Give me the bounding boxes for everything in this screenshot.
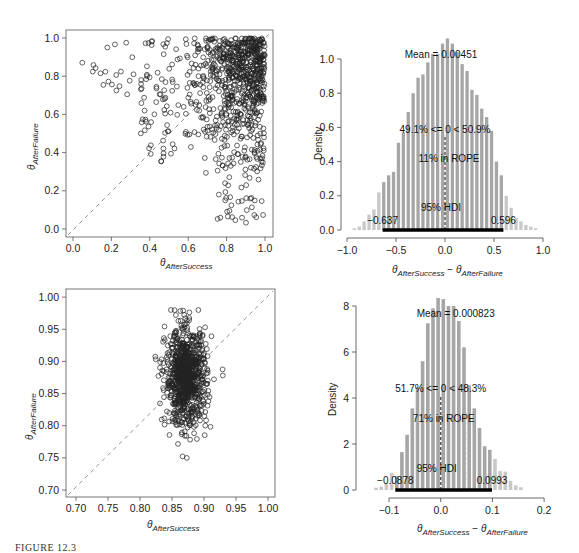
figure-canvas: 0.00.20.40.60.81.0 0.00.20.40.60.81.0 θA… (0, 0, 579, 553)
x-tick-label: 0.70 (66, 502, 87, 514)
x-tick-label: 0.0 (66, 242, 81, 254)
x-tick-label: 0.85 (162, 502, 183, 514)
y-axis-label: Density (313, 127, 324, 160)
histogram-bar (465, 71, 468, 230)
x-tick-label: 0.80 (130, 502, 151, 514)
histogram-bar (358, 227, 361, 230)
y-tick-label: 0.75 (39, 451, 60, 463)
x-axis-label: θAfterSuccess − θAfterFailure (417, 523, 528, 537)
histogram-top-right: 0.00.20.40.60.81.0−1.0−0.50.00.51.0Mean … (313, 39, 550, 279)
hdi-annotation: 95% HDI (421, 202, 461, 213)
y-tick-label: 0.8 (44, 70, 59, 82)
y-tick-label: 0 (343, 484, 349, 496)
x-tick-label: 0.90 (194, 502, 215, 514)
y-tick-label: 0.6 (44, 108, 59, 120)
histogram-bar (524, 225, 527, 230)
y-tick-label: 4 (343, 392, 349, 404)
histogram-bar (442, 299, 446, 490)
x-tick-label: 1.00 (258, 502, 279, 514)
histogram-bar (514, 485, 518, 490)
histogram-bar (353, 228, 356, 230)
histogram-bar (416, 388, 420, 490)
x-tick-label: −0.5 (386, 244, 407, 256)
y-tick-label: 0.0 (44, 223, 59, 235)
scatter-points (153, 308, 225, 461)
y-tick-label: 2 (343, 438, 349, 450)
histogram-bar (519, 221, 522, 230)
histogram-bar (402, 133, 405, 231)
y-tick-label: 0.85 (39, 387, 60, 399)
mean-annotation: Mean = 0.000823 (417, 308, 496, 319)
x-axis-ticks: 0.00.20.40.60.81.0 (66, 237, 273, 254)
x-tick-label: 0.6 (181, 242, 196, 254)
y-tick-label: 0.2 (44, 184, 59, 196)
y-tick-label: 0.8 (319, 87, 334, 99)
y-tick-label: 0.70 (39, 484, 60, 496)
x-axis-ticks: 0.700.750.800.850.900.951.00 (66, 497, 279, 514)
axes: 0.00.20.40.60.81.0−1.0−0.50.00.51.0Mean … (319, 49, 550, 256)
histogram-bars (374, 298, 522, 490)
y-tick-label: 0.80 (39, 419, 60, 431)
y-axis-label: Density (327, 383, 338, 416)
rope-annotation: 71% in ROPE (413, 413, 475, 424)
y-axis-ticks: 0.00.20.40.60.81.0 (44, 32, 66, 235)
y-axis-label: θAfterFailure (26, 123, 40, 170)
x-tick-label: 0.8 (219, 242, 234, 254)
x-tick-label: 1.0 (258, 242, 273, 254)
x-tick-label: −0.1 (379, 504, 400, 516)
x-tick-label: −1.0 (337, 244, 358, 256)
y-tick-label: 1.0 (44, 32, 59, 44)
figure-caption: FIGURE 12.3 (15, 542, 77, 553)
hdi-high-label: 0.596 (491, 215, 516, 226)
mean-annotation: Mean = 0.00451 (405, 49, 478, 60)
hdi-low-label: −0.637 (367, 215, 398, 226)
histogram-bar (363, 221, 366, 230)
histogram-bar (457, 321, 461, 490)
y-tick-label: 0.2 (319, 189, 334, 201)
y-tick-label: 0.90 (39, 355, 60, 367)
histogram-bar (534, 228, 537, 230)
x-tick-label: 1.0 (536, 244, 551, 256)
y-tick-label: 1.0 (319, 53, 334, 65)
x-tick-label: 0.95 (226, 502, 247, 514)
x-tick-label: 0.2 (537, 504, 552, 516)
histogram-bar (380, 487, 384, 490)
y-tick-label: 0.0 (319, 224, 334, 236)
x-tick-label: 0.5 (487, 244, 502, 256)
histogram-bar (436, 298, 440, 490)
x-tick-label: 0.75 (98, 502, 119, 514)
histogram-bar (519, 487, 523, 490)
x-tick-label: 0.2 (104, 242, 119, 254)
x-tick-label: 0.4 (142, 242, 157, 254)
histogram-bar (412, 93, 415, 230)
histogram-bar (529, 227, 532, 230)
x-axis-label: θAfterSuccess (147, 519, 200, 533)
hdi-low-label: −0.0878 (377, 475, 414, 486)
y-tick-label: 0.4 (44, 146, 59, 158)
y-axis-ticks: 0.700.750.800.850.900.951.00 (39, 291, 66, 496)
comparison-annotation: 49.1% <= 0 < 50.9% (400, 124, 491, 135)
histogram-bottom-right: 02468−0.10.00.10.2Mean = 0.00082351.7% <… (327, 298, 552, 537)
histogram-bar (509, 481, 513, 490)
y-tick-label: 6 (343, 346, 349, 358)
rope-annotation: 11% in ROPE (419, 153, 480, 164)
x-tick-label: 0.0 (433, 504, 448, 516)
x-tick-label: 0.1 (485, 504, 500, 516)
x-axis-label: θAfterSuccess (160, 257, 213, 271)
scatter-top-left: 0.00.20.40.60.81.0 0.00.20.40.60.81.0 θA… (26, 30, 273, 271)
y-tick-label: 1.00 (39, 291, 60, 303)
y-axis-label: θAfterFailure (24, 393, 38, 440)
hdi-annotation: 95% HDI (417, 463, 457, 474)
x-tick-label: 0.0 (438, 244, 453, 256)
y-tick-label: 8 (343, 300, 349, 312)
comparison-annotation: 51.7% <= 0 < 48.3% (395, 383, 486, 394)
histogram-bar (374, 488, 378, 490)
histogram-bar (467, 385, 471, 490)
scatter-points (80, 36, 267, 225)
hdi-high-label: 0.0993 (477, 475, 508, 486)
y-tick-label: 0.95 (39, 323, 60, 335)
scatter-bottom-left: 0.700.750.800.850.900.951.00 0.700.750.8… (24, 289, 278, 533)
x-axis-label: θAfterSuccess − θAfterFailure (392, 264, 503, 278)
